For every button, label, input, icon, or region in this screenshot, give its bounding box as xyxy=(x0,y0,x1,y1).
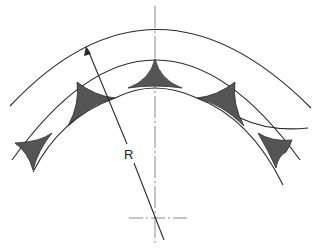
cusp-lower-left xyxy=(15,133,52,170)
cusp-upper-right xyxy=(197,82,244,126)
ring-section-diagram: R xyxy=(0,0,316,251)
cusp-top xyxy=(128,59,182,88)
radius-line-lower xyxy=(134,163,164,240)
outer-arc xyxy=(10,29,311,108)
radius-label: R xyxy=(124,147,133,162)
inner-profile xyxy=(33,88,283,185)
shaded-cusps xyxy=(15,59,292,170)
inner-profile-lower-right xyxy=(240,118,308,129)
